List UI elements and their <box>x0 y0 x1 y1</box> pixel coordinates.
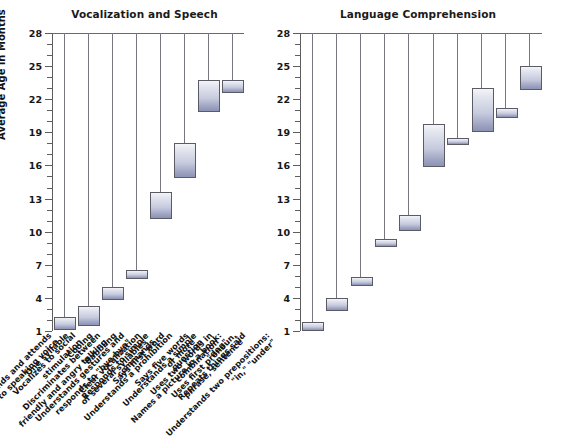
y-tick <box>293 298 300 299</box>
range-bar <box>326 298 348 311</box>
y-tick-label: 28 <box>29 28 42 39</box>
chart-title-right: Language Comprehension <box>265 8 561 20</box>
range-bar <box>302 322 324 331</box>
range-bar <box>472 88 494 132</box>
y-axis-line-left <box>52 33 53 331</box>
plot-area-right <box>300 33 542 331</box>
y-tick <box>293 165 300 166</box>
range-dropline <box>64 33 65 317</box>
range-bar <box>78 306 100 327</box>
y-tick-label: 25 <box>29 61 42 72</box>
range-bar <box>423 124 445 168</box>
y-tick <box>45 33 52 34</box>
range-dropline <box>88 33 89 306</box>
y-tick <box>295 44 300 45</box>
range-dropline <box>360 33 361 277</box>
y-tick <box>295 276 300 277</box>
range-bar-series-left <box>52 33 244 331</box>
range-bar <box>399 215 421 231</box>
range-dropline <box>136 33 137 270</box>
range-dropline <box>232 33 233 80</box>
y-tick-label: 10 <box>29 226 42 237</box>
range-dropline <box>184 33 185 143</box>
y-tick <box>295 287 300 288</box>
y-tick <box>295 88 300 89</box>
y-tick-label: 4 <box>283 292 290 303</box>
y-tick <box>47 55 52 56</box>
range-dropline <box>336 33 337 298</box>
range-bar <box>102 287 124 300</box>
y-tick <box>295 309 300 310</box>
y-tick-label: 4 <box>35 292 42 303</box>
y-tick <box>295 243 300 244</box>
y-tick <box>295 121 300 122</box>
y-tick <box>295 176 300 177</box>
y-tick <box>295 143 300 144</box>
range-bar-series-right <box>300 33 542 331</box>
y-tick <box>293 265 300 266</box>
y-tick-label: 22 <box>29 94 42 105</box>
range-dropline <box>505 33 506 108</box>
y-tick-label: 19 <box>29 127 42 138</box>
range-bar <box>520 66 542 90</box>
y-tick <box>45 298 52 299</box>
y-tick <box>47 276 52 277</box>
y-tick-label: 13 <box>29 193 42 204</box>
y-tick <box>47 309 52 310</box>
range-dropline <box>457 33 458 138</box>
range-bar <box>174 143 196 178</box>
y-tick <box>293 199 300 200</box>
y-tick-label: 13 <box>277 193 290 204</box>
y-tick <box>47 77 52 78</box>
chart-title-left: Vocalization and Speech <box>0 8 265 20</box>
range-dropline <box>529 33 530 66</box>
y-tick <box>47 287 52 288</box>
y-tick <box>47 44 52 45</box>
x-axis-category-labels-right: Responds and attends to speaking voiceVo… <box>0 331 561 448</box>
range-dropline <box>312 33 313 322</box>
y-tick <box>47 143 52 144</box>
y-tick <box>295 254 300 255</box>
range-bar <box>54 317 76 330</box>
y-tick <box>295 77 300 78</box>
y-tick <box>47 110 52 111</box>
y-tick <box>45 99 52 100</box>
y-tick-label: 25 <box>277 61 290 72</box>
range-dropline <box>208 33 209 80</box>
y-tick-label: 10 <box>277 226 290 237</box>
y-tick <box>47 188 52 189</box>
y-tick <box>47 254 52 255</box>
y-tick <box>45 265 52 266</box>
y-axis-title: Average Age in Months <box>0 9 7 140</box>
y-tick <box>47 221 52 222</box>
y-tick-label: 7 <box>35 259 42 270</box>
chart-figure: Vocalization and Speech Average Age in M… <box>0 0 561 448</box>
range-dropline <box>433 33 434 124</box>
range-dropline <box>481 33 482 88</box>
y-tick <box>295 55 300 56</box>
y-tick <box>295 188 300 189</box>
range-bar <box>126 270 148 279</box>
y-tick-label: 7 <box>283 259 290 270</box>
y-tick-label: 16 <box>29 160 42 171</box>
y-tick <box>293 132 300 133</box>
y-tick <box>45 132 52 133</box>
y-tick <box>47 88 52 89</box>
y-tick <box>295 320 300 321</box>
y-tick <box>47 176 52 177</box>
y-axis-line-right <box>300 33 301 331</box>
plot-area-left <box>52 33 244 331</box>
y-tick-label: 28 <box>277 28 290 39</box>
range-bar <box>351 277 373 286</box>
range-bar <box>198 80 220 112</box>
range-bar <box>447 138 469 146</box>
y-tick <box>293 66 300 67</box>
y-tick <box>47 210 52 211</box>
y-tick <box>47 121 52 122</box>
y-tick <box>45 232 52 233</box>
y-tick <box>47 243 52 244</box>
range-dropline <box>112 33 113 287</box>
y-tick <box>47 154 52 155</box>
range-bar <box>375 239 397 247</box>
y-tick <box>293 33 300 34</box>
